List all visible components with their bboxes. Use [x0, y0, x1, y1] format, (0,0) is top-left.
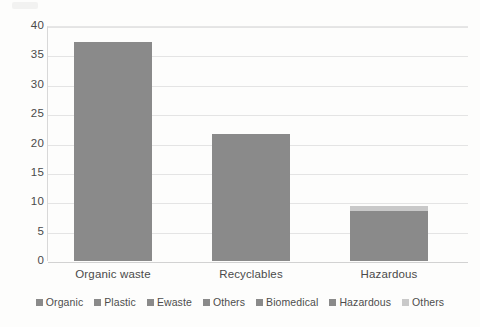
chart-legend: OrganicPlasticEwasteOthersBiomedicalHaza…	[0, 297, 480, 308]
y-axis-tick-label: 5	[10, 226, 44, 238]
legend-label: Plastic	[104, 297, 136, 308]
gridline	[48, 174, 468, 175]
legend-item[interactable]: Hazardous	[329, 297, 391, 308]
y-axis-tick-label: 40	[10, 20, 44, 32]
gridline	[48, 86, 468, 87]
gridline	[48, 262, 468, 263]
legend-swatch-icon	[203, 299, 210, 306]
legend-swatch-icon	[329, 299, 336, 306]
legend-label: Ewaste	[157, 297, 192, 308]
legend-label: Others	[213, 297, 245, 308]
legend-label: Others	[412, 297, 444, 308]
legend-label: Hazardous	[339, 297, 391, 308]
legend-item[interactable]: Plastic	[94, 297, 136, 308]
y-axis-tick-label: 10	[10, 196, 44, 208]
legend-swatch-icon	[402, 299, 409, 306]
gridline	[48, 233, 468, 234]
legend-item[interactable]: Others	[203, 297, 245, 308]
legend-item[interactable]: Ewaste	[147, 297, 192, 308]
legend-swatch-icon	[147, 299, 154, 306]
y-axis-tick-label: 25	[10, 108, 44, 120]
gridline	[48, 203, 468, 204]
legend-swatch-icon	[36, 299, 43, 306]
legend-swatch-icon	[94, 299, 101, 306]
gridline	[48, 56, 468, 57]
legend-swatch-icon	[256, 299, 263, 306]
y-axis-tick-label: 0	[10, 255, 44, 267]
x-axis-category-label: Hazardous	[350, 268, 428, 280]
gridline	[48, 145, 468, 146]
y-axis-tick-label: 30	[10, 79, 44, 91]
y-axis-tick-label: 20	[10, 138, 44, 150]
gridline	[48, 115, 468, 116]
x-axis-category-label: Recyclables	[212, 268, 290, 280]
gridline	[48, 27, 468, 28]
scan-artifact	[12, 2, 38, 9]
legend-item[interactable]: Biomedical	[256, 297, 318, 308]
legend-label: Organic	[46, 297, 83, 308]
legend-item[interactable]: Organic	[36, 297, 83, 308]
y-axis-tick-label: 35	[10, 49, 44, 61]
legend-label: Biomedical	[266, 297, 318, 308]
bar-chart: 4035302520151050 Organic wasteRecyclable…	[0, 0, 480, 327]
x-axis-category-label: Organic waste	[74, 268, 152, 280]
legend-item[interactable]: Others	[402, 297, 444, 308]
y-axis-tick-label: 15	[10, 167, 44, 179]
plot-area	[47, 26, 468, 261]
